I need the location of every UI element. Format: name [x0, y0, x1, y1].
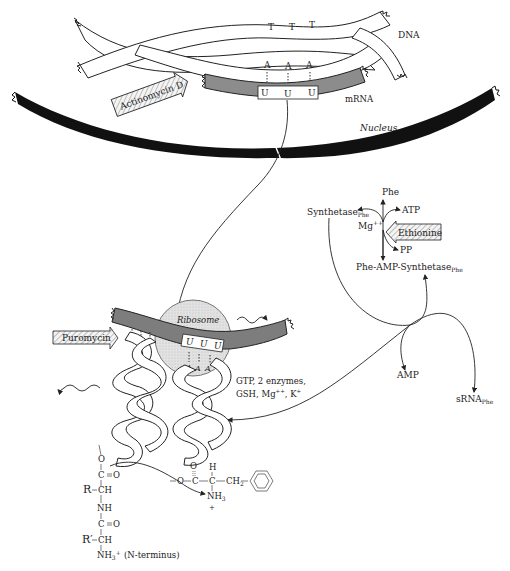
base-t2: T [289, 22, 295, 32]
atom-ch1: CH [98, 485, 112, 495]
amp-label: AMP [396, 370, 419, 380]
atom-phe-nh3: NH3 [207, 491, 226, 502]
atom-c1: C [98, 470, 105, 480]
puromycin-arrow: Puromycin [53, 327, 118, 349]
atom-phe-alpha-c: C [209, 476, 216, 486]
rib-codon-u2: U [200, 339, 208, 349]
released-peptide-wave-right [237, 317, 267, 323]
rib-codon-u3: U [214, 341, 222, 351]
ethionine-label: Ethionine [398, 228, 442, 238]
codon-u3: U [308, 88, 316, 98]
atom-o1: O [98, 454, 105, 464]
activation-pathway: Phe ATP SynthetasePhe Mg++ PP Phe-AMP-Sy… [307, 187, 494, 405]
nucleus-label: Nucleus [359, 123, 398, 133]
atom-phe-plus: + [209, 504, 215, 512]
cofactors-line2: GSH, Mg++, K+ [236, 388, 302, 399]
mrna-export-path [175, 100, 288, 330]
phe-label: Phe [382, 187, 399, 197]
phe-bonds [170, 471, 273, 491]
atom-phe-o-double: O [190, 461, 197, 471]
atom-r: R [83, 483, 92, 496]
puromycin-label: Puromycin [62, 333, 111, 343]
base-a2: A [284, 61, 292, 71]
nuclear-membrane [12, 86, 500, 160]
mg-label: Mg++ [358, 219, 383, 231]
cofactors-label: GTP, 2 enzymes, GSH, Mg++, K+ [236, 376, 306, 399]
base-t1: T [268, 22, 274, 32]
peptide-chain: O C O R CH NH C O R′ CH NH3+ (N-terminus… [82, 454, 180, 561]
codon-u1: U [261, 88, 269, 98]
protein-synthesis-diagram: T T T A A A DNA U U U mRNA Actinomycin D… [0, 0, 510, 571]
atom-c2: C [98, 519, 105, 529]
atom-o1-double: O [113, 470, 120, 480]
n-terminus-nh3: NH3+ [97, 549, 121, 561]
srna-label: sRNAPhe [456, 394, 494, 405]
actinomycin-arrow: Actinomycin D [110, 69, 192, 120]
n-terminus-label: (N-terminus) [124, 550, 180, 560]
pp-label: PP [400, 245, 412, 255]
released-peptide-wave-left [58, 385, 100, 391]
rib-codon-u1: U [186, 337, 194, 347]
ribosome-label: Ribosome [176, 315, 219, 325]
atom-ch2: CH [98, 535, 112, 545]
cofactors-line1: GTP, 2 enzymes, [236, 376, 306, 386]
dna-label: DNA [398, 30, 420, 40]
atom-phe-h: H [209, 462, 216, 472]
codon-u2: U [284, 89, 292, 99]
base-a3: A [305, 60, 313, 70]
base-a1: A [263, 60, 271, 70]
atom-r-prime: R′ [82, 533, 93, 546]
atom-phe-ch2: CH2 [226, 476, 244, 487]
atom-o2-double: O [113, 519, 120, 529]
base-t3: T [309, 20, 315, 30]
atom-nh: NH [97, 503, 112, 513]
complex-label: Phe-AMP-SynthetasePhe [356, 262, 463, 273]
atp-label: ATP [401, 205, 420, 215]
atom-phe-c: C [192, 476, 199, 486]
synthetase-label: SynthetasePhe [307, 207, 370, 218]
anticodon-a2: A [194, 364, 201, 373]
mrna-label: mRNA [345, 94, 374, 104]
ethionine-arrow: Ethionine [386, 221, 442, 243]
